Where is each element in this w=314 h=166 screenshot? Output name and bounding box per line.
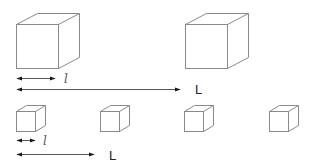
small-cube-4 bbox=[270, 106, 299, 132]
cube-spacing-diagram: l L l L bbox=[0, 0, 314, 166]
large-cube-2 bbox=[186, 14, 249, 69]
bottom-row: l L bbox=[17, 106, 299, 164]
small-cube-spacing-label: L bbox=[109, 148, 116, 163]
small-cube-side-label: l bbox=[43, 134, 47, 148]
small-cube-3 bbox=[185, 106, 214, 132]
large-cube-1 bbox=[17, 14, 80, 69]
cube-side-label: l bbox=[64, 72, 68, 86]
small-cube-2 bbox=[101, 106, 130, 132]
small-cube-1 bbox=[17, 106, 46, 132]
cube-spacing-label: L bbox=[195, 82, 202, 97]
top-row: l L bbox=[17, 14, 249, 98]
